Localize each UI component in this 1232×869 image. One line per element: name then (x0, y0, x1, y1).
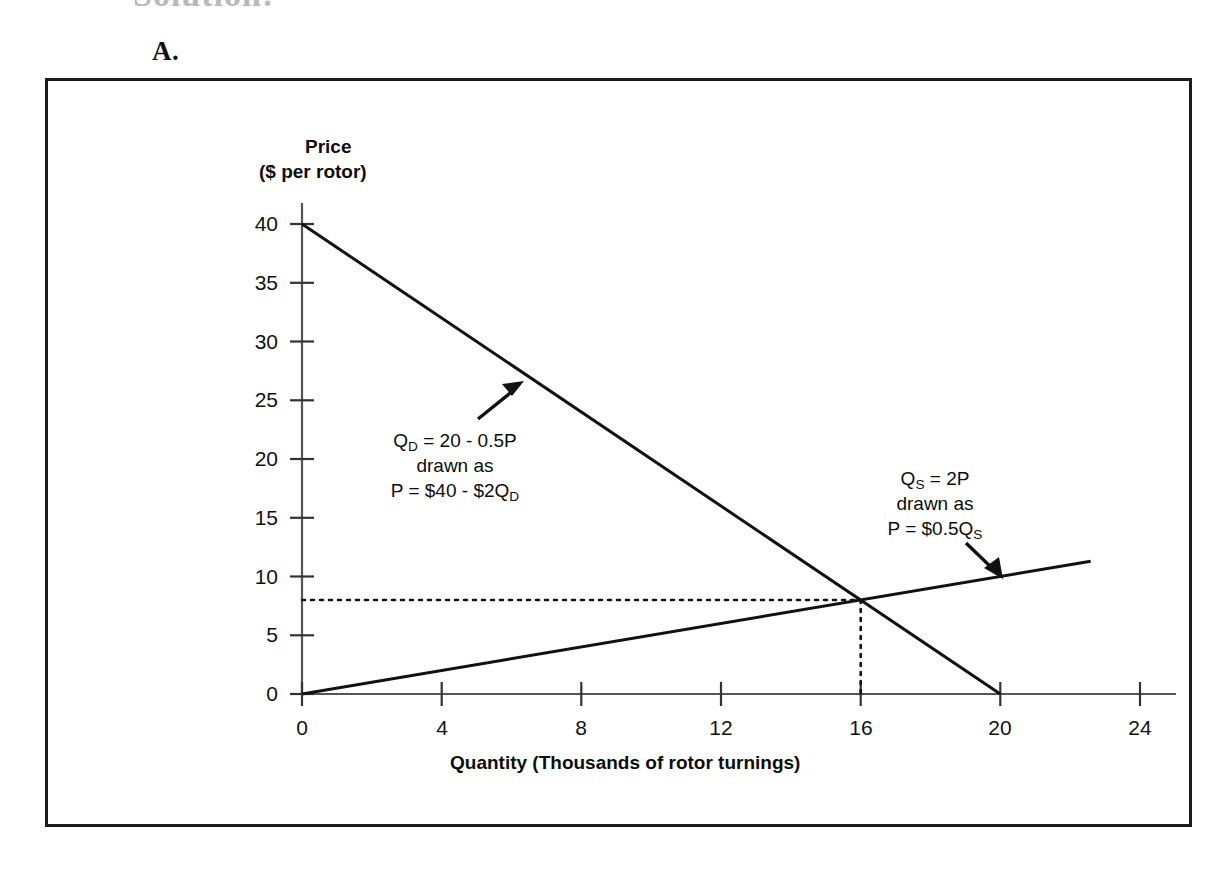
y-tick-label: 25 (232, 388, 278, 412)
demand-annotation-line3: P = $40 - $2QD (330, 478, 580, 503)
x-axis-title: Quantity (Thousands of rotor turnings) (450, 752, 800, 774)
y-tick-label: 35 (232, 271, 278, 295)
figure-frame (45, 78, 1192, 827)
x-tick-label: 24 (1117, 716, 1163, 740)
y-tick-label: 40 (232, 212, 278, 236)
part-label: A. (152, 36, 179, 67)
y-tick-label: 5 (232, 623, 278, 647)
demand-annotation: QD = 20 - 0.5P drawn as P = $40 - $2QD (330, 428, 580, 503)
y-tick-label: 20 (232, 447, 278, 471)
y-axis-title-line1: Price (305, 136, 351, 158)
x-tick-label: 16 (838, 716, 884, 740)
page-canvas: Solution: A. (0, 0, 1232, 869)
y-tick-label: 0 (232, 682, 278, 706)
supply-annotation: QS = 2P drawn as P = $0.5QS (820, 466, 1050, 541)
supply-annotation-line3: P = $0.5QS (820, 516, 1050, 541)
y-tick-label: 10 (232, 565, 278, 589)
y-tick-label: 15 (232, 506, 278, 530)
demand-annotation-line1: QD = 20 - 0.5P (330, 428, 580, 453)
x-tick-label: 0 (279, 716, 325, 740)
demand-annotation-line2: drawn as (330, 453, 580, 478)
x-tick-label: 4 (419, 716, 465, 740)
x-tick-label: 8 (558, 716, 604, 740)
y-tick-label: 30 (232, 330, 278, 354)
x-tick-label: 12 (698, 716, 744, 740)
x-tick-label: 20 (977, 716, 1023, 740)
supply-annotation-line2: drawn as (820, 491, 1050, 516)
supply-annotation-line1: QS = 2P (820, 466, 1050, 491)
cut-off-heading: Solution: (133, 0, 274, 14)
y-axis-title-line2: ($ per rotor) (259, 161, 367, 183)
